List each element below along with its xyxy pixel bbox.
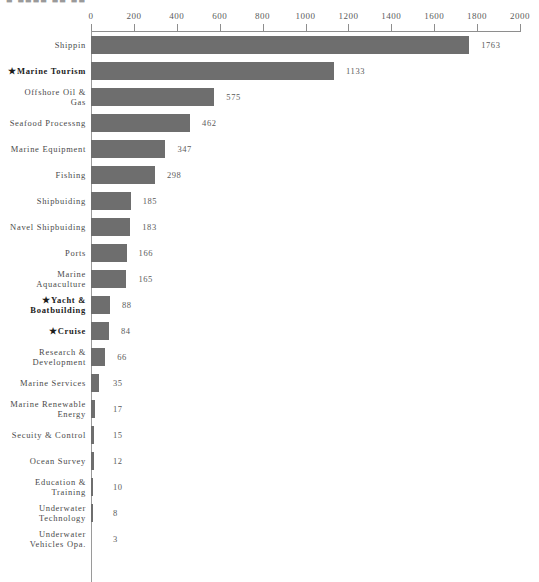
bar[interactable]: [91, 218, 130, 236]
category-label: Fishing: [0, 162, 86, 188]
bar-row: Marine Renewable Energy17: [0, 396, 539, 422]
bar-rows: Shippin1763★Marine Tourism1133Offshore O…: [0, 32, 539, 552]
bar[interactable]: [91, 88, 214, 106]
bar-row: ★Yacht & Boatbuilding88: [0, 292, 539, 318]
axis-tick-label: 200: [126, 11, 141, 21]
axis-tick-label: 800: [255, 11, 270, 21]
axis-tick: [263, 24, 264, 32]
category-label: Research & Development: [0, 344, 86, 370]
category-label: Shippin: [0, 32, 86, 58]
category-label: Ocean Survey: [0, 448, 86, 474]
axis-tick: [134, 24, 135, 32]
category-label: Ports: [0, 240, 86, 266]
category-label: Marine Services: [0, 370, 86, 396]
category-label: Marine Renewable Energy: [0, 396, 86, 422]
bar-value-label: 298: [167, 162, 182, 188]
bar-row: Ocean Survey12: [0, 448, 539, 474]
axis-tick: [177, 24, 178, 32]
axis-tick: [520, 24, 521, 32]
bar[interactable]: [91, 374, 99, 392]
bar-value-label: 165: [138, 266, 153, 292]
bar-value-label: 35: [113, 370, 123, 396]
bar-row: Ports166: [0, 240, 539, 266]
bar-value-label: 462: [202, 110, 217, 136]
axis-tick-label: 400: [169, 11, 184, 21]
bar-row: ★Cruise84: [0, 318, 539, 344]
bar[interactable]: [91, 478, 93, 496]
bar-value-label: 1133: [346, 58, 365, 84]
bar[interactable]: [91, 166, 155, 184]
bar[interactable]: [91, 322, 109, 340]
axis-tick: [348, 24, 349, 32]
axis-tick: [306, 24, 307, 32]
axis-tick: [477, 24, 478, 32]
bar-chart: ■ ■■■■ ■■ ■■ 020040060080010001200140016…: [0, 0, 539, 582]
bar-value-label: 66: [117, 344, 127, 370]
bar-value-label: 88: [122, 292, 132, 318]
bar-value-label: 166: [139, 240, 154, 266]
bar-value-label: 12: [113, 448, 123, 474]
bar-row: Marine Equipment347: [0, 136, 539, 162]
bar-value-label: 10: [113, 474, 123, 500]
bar-row: Underwater Vehicles Opa.3: [0, 526, 539, 552]
bar[interactable]: [91, 244, 127, 262]
axis-tick-label: 0: [89, 11, 94, 21]
bar-value-label: 15: [113, 422, 123, 448]
bar-row: Fishing298: [0, 162, 539, 188]
category-label: Offshore Oil & Gas: [0, 84, 86, 110]
bar-value-label: 183: [142, 214, 157, 240]
bar[interactable]: [91, 348, 105, 366]
bar-row: Navel Shipbuiding183: [0, 214, 539, 240]
category-label: ★Marine Tourism: [0, 58, 86, 84]
bar-value-label: 17: [113, 396, 123, 422]
category-label: Navel Shipbuiding: [0, 214, 86, 240]
bar-row: ★Marine Tourism1133: [0, 58, 539, 84]
category-label: Underwater Technology: [0, 500, 86, 526]
bar-value-label: 8: [113, 500, 118, 526]
bar-row: Marine Services35: [0, 370, 539, 396]
bar[interactable]: [91, 452, 94, 470]
axis-tick-label: 1600: [424, 11, 444, 21]
value-axis: 0200400600800100012001400160018002000: [0, 0, 539, 32]
axis-tick-label: 1200: [338, 11, 358, 21]
bar-row: Underwater Technology8: [0, 500, 539, 526]
category-label: Underwater Vehicles Opa.: [0, 526, 86, 552]
bar[interactable]: [91, 62, 334, 80]
category-label: Marine Aquaculture: [0, 266, 86, 292]
axis-tick-label: 2000: [510, 11, 530, 21]
bar[interactable]: [91, 296, 110, 314]
bar[interactable]: [91, 504, 93, 522]
bar[interactable]: [91, 36, 469, 54]
category-label: Seafood Processng: [0, 110, 86, 136]
category-label: Education & Training: [0, 474, 86, 500]
bar-row: Offshore Oil & Gas575: [0, 84, 539, 110]
bar-row: Research & Development66: [0, 344, 539, 370]
bar-value-label: 84: [121, 318, 131, 344]
category-label: Marine Equipment: [0, 136, 86, 162]
category-label: Secuity & Control: [0, 422, 86, 448]
bar-value-label: 185: [143, 188, 158, 214]
bar[interactable]: [91, 192, 131, 210]
bar[interactable]: [91, 140, 165, 158]
axis-tick-label: 600: [212, 11, 227, 21]
bar-row: Shippin1763: [0, 32, 539, 58]
bar-row: Marine Aquaculture165: [0, 266, 539, 292]
bar-row: Seafood Processng462: [0, 110, 539, 136]
bar-value-label: 1763: [481, 32, 500, 58]
axis-tick-label: 1000: [296, 11, 316, 21]
axis-tick: [434, 24, 435, 32]
axis-tick-label: 1400: [381, 11, 401, 21]
bar[interactable]: [91, 426, 94, 444]
bar[interactable]: [91, 270, 126, 288]
bar-value-label: 575: [226, 84, 241, 110]
bar-value-label: 347: [177, 136, 192, 162]
category-label: Shipbuiding: [0, 188, 86, 214]
bar[interactable]: [91, 400, 95, 418]
category-label: ★Cruise: [0, 318, 86, 344]
axis-tick: [391, 24, 392, 32]
bar[interactable]: [91, 114, 190, 132]
axis-tick: [220, 24, 221, 32]
bar-value-label: 3: [113, 526, 118, 552]
axis-tick-label: 1800: [467, 11, 487, 21]
category-label: ★Yacht & Boatbuilding: [0, 292, 86, 318]
